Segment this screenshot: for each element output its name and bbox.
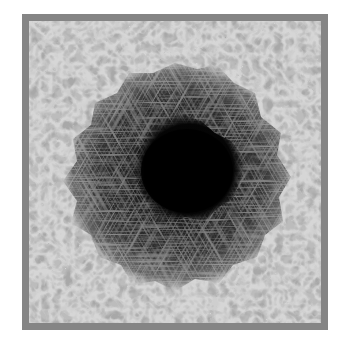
sunspot-photo <box>29 21 321 323</box>
sunspot-image <box>29 21 321 323</box>
sunspot-photo-frame <box>22 14 328 330</box>
